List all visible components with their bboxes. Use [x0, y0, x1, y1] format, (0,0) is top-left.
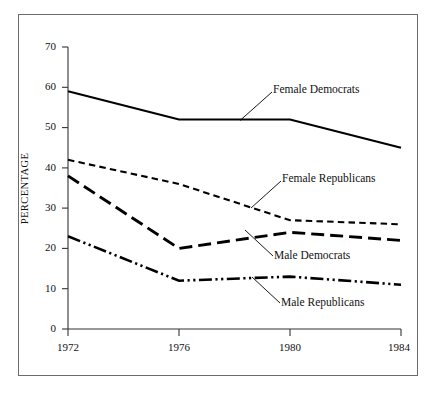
chart-page: PERCENTAGE 70 60 50 40 30 20 10 0 1972 1… [0, 0, 437, 393]
line-chart-canvas [0, 0, 437, 393]
leader-line-female-republicans [251, 181, 281, 208]
y-tick-label-20: 20 [28, 241, 56, 253]
series-label-male-republicans: Male Republicans [281, 296, 364, 308]
y-axis-ticks [62, 47, 68, 329]
y-tick-label-0: 0 [28, 322, 56, 334]
leader-line-female-democrats [240, 92, 272, 121]
series-label-male-democrats: Male Democrats [274, 249, 350, 261]
x-tick-label-1976: 1976 [156, 341, 202, 353]
y-tick-label-40: 40 [28, 161, 56, 173]
y-tick-label-70: 70 [28, 40, 56, 52]
y-tick-label-10: 10 [28, 282, 56, 294]
series-label-female-republicans: Female Republicans [282, 172, 376, 184]
x-axis-ticks [68, 329, 401, 336]
x-tick-label-1980: 1980 [267, 341, 313, 353]
series-line-male-republicans [68, 236, 401, 284]
x-tick-label-1984: 1984 [376, 341, 422, 353]
y-tick-label-50: 50 [28, 120, 56, 132]
series-line-female-democrats [68, 91, 401, 147]
series-line-male-democrats [68, 176, 401, 249]
y-tick-label-30: 30 [28, 201, 56, 213]
y-tick-label-60: 60 [28, 80, 56, 92]
y-axis-title: PERCENTAGE [19, 134, 30, 244]
series-label-female-democrats: Female Democrats [273, 83, 360, 95]
series-line-female-republicans [68, 160, 401, 225]
x-tick-label-1972: 1972 [45, 341, 91, 353]
leader-line-male-democrats [245, 230, 273, 256]
leader-line-male-republicans [252, 277, 280, 303]
